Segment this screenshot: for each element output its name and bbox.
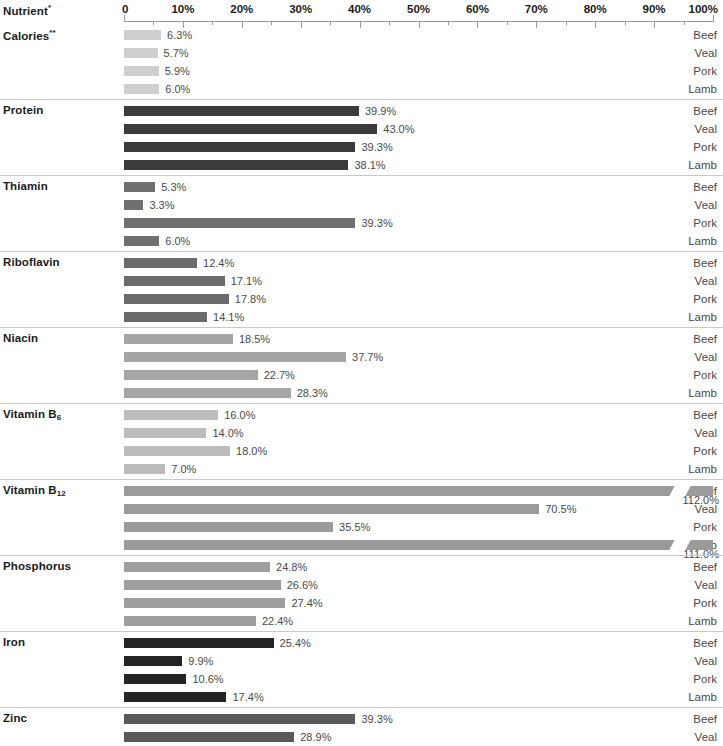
bar-value-label: 17.1% <box>231 272 262 290</box>
chart-header: Nutrient* 010%20%30%40%50%60%70%80%90%10… <box>0 0 723 22</box>
bar-value-label: 14.0% <box>212 424 243 442</box>
bar-row-label: Veal <box>611 196 723 214</box>
bar-row: Beef18.5% <box>0 330 723 348</box>
bar-row: Pork17.8% <box>0 290 723 308</box>
bar-value-label: 24.8% <box>276 558 307 576</box>
bar <box>124 410 218 420</box>
bar-value-label: 37.7% <box>352 348 383 366</box>
bar-row-label: Veal <box>611 652 723 670</box>
bar-row-label: Lamb <box>611 232 723 250</box>
bar <box>124 638 274 648</box>
x-axis-minor-tick <box>389 21 390 25</box>
bar-row: Beef12.4% <box>0 254 723 272</box>
bar-value-label: 12.4% <box>203 254 234 272</box>
bar-value-label: 9.9% <box>188 652 213 670</box>
bar-row-label: Pork <box>611 670 723 688</box>
bar <box>124 236 159 246</box>
bar-value-label: 28.3% <box>297 384 328 402</box>
bar-value-label: 5.7% <box>164 44 189 62</box>
bar <box>124 598 285 608</box>
bar-value-label: 7.0% <box>171 460 196 478</box>
bar-value-label: 38.1% <box>354 156 385 174</box>
bar-row-label: Lamb <box>611 384 723 402</box>
bar-row-label: Lamb <box>611 80 723 98</box>
bar-row: Beef25.4% <box>0 634 723 652</box>
bar-value-label: 16.0% <box>224 406 255 424</box>
bar-row: Beef16.0% <box>0 406 723 424</box>
bar <box>124 656 182 666</box>
bar-value-label: 39.3% <box>361 710 392 728</box>
bar-value-label: 39.3% <box>361 214 392 232</box>
bar-row-label: Beef <box>611 26 723 44</box>
bar-row: Veal70.5% <box>0 500 723 518</box>
x-axis-minor-tick <box>212 21 213 25</box>
bar <box>124 312 207 322</box>
bar <box>124 540 713 550</box>
x-axis-tick-label: 100% <box>689 3 718 15</box>
bar-row: Veal17.1% <box>0 272 723 290</box>
bar-row: Pork35.5% <box>0 518 723 536</box>
bar-value-label: 3.3% <box>149 196 174 214</box>
bar-row: Lamb7.0% <box>0 460 723 478</box>
bar <box>124 48 158 58</box>
x-axis-tick-label: 30% <box>289 3 312 15</box>
x-axis-tick-label: 90% <box>643 3 666 15</box>
bar-value-label: 17.8% <box>235 290 266 308</box>
bar-row: Lamb111.0% <box>0 536 723 554</box>
bar <box>124 504 539 514</box>
x-axis-tick-label: 10% <box>171 3 194 15</box>
bar <box>124 276 225 286</box>
bar <box>124 464 165 474</box>
x-axis-tick-label: 80% <box>584 3 607 15</box>
group-separator <box>0 555 723 556</box>
bar-row: Lamb14.1% <box>0 308 723 326</box>
bar-row-label: Veal <box>611 500 723 518</box>
bar <box>124 692 226 702</box>
x-axis-tick-labels: 010%20%30%40%50%60%70%80%90%100% <box>0 0 723 20</box>
bar <box>124 446 230 456</box>
bar <box>124 674 186 684</box>
bar-row: Lamb6.0% <box>0 80 723 98</box>
bar-row-label: Veal <box>611 348 723 366</box>
bar-row-label: Lamb <box>611 460 723 478</box>
bar-value-label: 39.9% <box>365 102 396 120</box>
bar-row-label: Pork <box>611 518 723 536</box>
x-axis-tick-label: 70% <box>525 3 548 15</box>
bar-value-label: 22.4% <box>262 612 293 630</box>
bar-value-label: 26.6% <box>287 576 318 594</box>
bar-value-label: 6.0% <box>165 232 190 250</box>
bar-row: Pork39.3% <box>0 138 723 156</box>
bar-row: Veal26.6% <box>0 576 723 594</box>
bar-row: Pork5.9% <box>0 62 723 80</box>
bar-row: Veal3.3% <box>0 196 723 214</box>
bar-value-label: 18.5% <box>239 330 270 348</box>
bar-row: Beef39.3% <box>0 710 723 728</box>
bar <box>124 562 270 572</box>
group-separator <box>0 251 723 252</box>
bar <box>124 30 161 40</box>
bar-value-label: 25.4% <box>280 634 311 652</box>
bar-row: Veal43.0% <box>0 120 723 138</box>
bar-row: Lamb6.0% <box>0 232 723 250</box>
x-axis-minor-tick <box>330 21 331 25</box>
bar-value-label: 35.5% <box>339 518 370 536</box>
bar <box>124 714 355 724</box>
bar <box>124 522 333 532</box>
x-axis-minor-tick <box>507 21 508 25</box>
bar-row: Beef112.0% <box>0 482 723 500</box>
bar-row: Pork18.0% <box>0 442 723 460</box>
bar-row-label: Pork <box>611 214 723 232</box>
x-axis-end-cap <box>713 15 714 22</box>
bar-row: Pork27.4% <box>0 594 723 612</box>
x-axis-tick-label: 60% <box>466 3 489 15</box>
bar-row: Pork22.7% <box>0 366 723 384</box>
bar-row-label: Veal <box>611 44 723 62</box>
bar <box>124 294 229 304</box>
bar-value-label: 18.0% <box>236 442 267 460</box>
bar <box>124 124 377 134</box>
bar-row-label: Lamb <box>611 688 723 706</box>
bar-row-label: Lamb <box>611 308 723 326</box>
group-separator <box>0 403 723 404</box>
x-axis-minor-tick <box>625 21 626 25</box>
bar-row: Lamb28.3% <box>0 384 723 402</box>
